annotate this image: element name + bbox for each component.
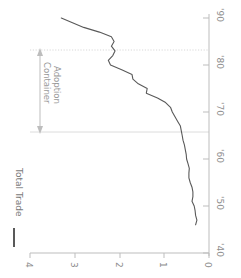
year-tick-50: '50 [215, 196, 225, 210]
value-axis [30, 253, 209, 258]
value-tick-4: 4 [24, 262, 34, 268]
legend-label-total-trade: Total Trade [14, 168, 24, 217]
chart-canvas [0, 0, 241, 278]
series-total-trade [61, 18, 197, 225]
year-tick-90: '90 [215, 8, 225, 22]
chart-root: '90 '80 '70 '60 '50 '40 4 3 2 1 0 Contai… [0, 0, 241, 278]
year-tick-40: '40 [215, 243, 225, 257]
annotation-container-adoption-line2: Adoption [52, 66, 62, 104]
value-tick-1: 1 [158, 262, 168, 268]
year-tick-70: '70 [215, 102, 225, 116]
annotation-container-adoption-line1: Container [42, 62, 52, 104]
year-tick-80: '80 [215, 55, 225, 69]
value-tick-0: 0 [203, 262, 213, 268]
year-tick-60: '60 [215, 149, 225, 163]
plot-area: '90 '80 '70 '60 '50 '40 4 3 2 1 0 Contai… [0, 0, 241, 278]
value-tick-2: 2 [114, 262, 124, 268]
value-tick-3: 3 [69, 262, 79, 268]
